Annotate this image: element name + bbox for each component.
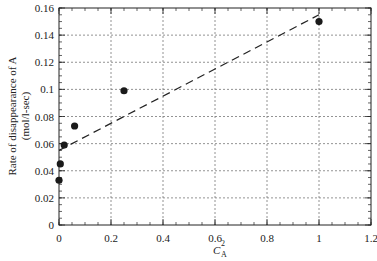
y-tick-labels: 00.020.040.060.080.10.120.140.16 — [35, 2, 55, 231]
y-tick-label: 0.08 — [35, 111, 55, 123]
x-tick-labels: 00.20.40.60.811.2 — [56, 232, 377, 244]
data-point — [120, 87, 127, 94]
x-tick-label: 1.2 — [364, 232, 377, 244]
y-tick-label: 0 — [49, 219, 55, 231]
y-tick-label: 0.04 — [35, 165, 55, 177]
y-tick-label: 0.06 — [35, 138, 55, 150]
x-axis-title-subscript: A — [221, 250, 227, 259]
y-tick-label: 0.12 — [35, 56, 54, 68]
y-axis-title-line1: Rate of disappearance of A — [6, 56, 18, 175]
x-tick-label: 0.2 — [104, 232, 118, 244]
x-tick-label: 0.8 — [260, 232, 274, 244]
y-tick-label: 0.16 — [35, 2, 55, 14]
x-tick-label: 0.4 — [156, 232, 170, 244]
y-axis-title: Rate of disappearance of A (mol/l-sec) — [6, 56, 32, 175]
data-point — [57, 160, 64, 167]
data-point — [55, 177, 62, 184]
y-tick-label: 0.1 — [40, 83, 54, 95]
scatter-chart: 00.20.40.60.811.2 00.020.040.060.080.10.… — [0, 0, 377, 261]
grid-lines — [59, 8, 371, 225]
y-tick-label: 0.02 — [35, 192, 54, 204]
data-series — [55, 15, 322, 184]
x-axis-title-main: C — [213, 244, 221, 256]
x-tick-label: 0 — [56, 232, 62, 244]
y-tick-label: 0.14 — [35, 29, 55, 41]
data-point — [315, 18, 322, 25]
x-axis-title-superscript: 2 — [221, 239, 225, 248]
data-point — [71, 122, 78, 129]
x-tick-label: 1 — [316, 232, 322, 244]
y-axis-title-line2: (mol/l-sec) — [19, 92, 32, 141]
